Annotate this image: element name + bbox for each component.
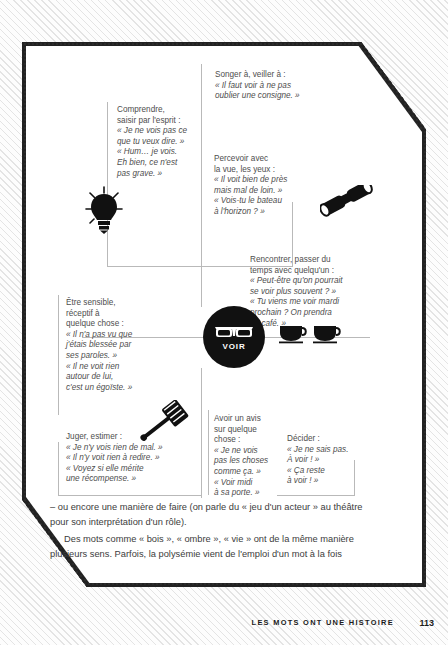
node-rencontrer-head-1: Rencontrer, passer du: [250, 255, 380, 266]
bracket-sensible-vertical: [58, 295, 59, 415]
node-decider-head: Décider :: [287, 434, 357, 445]
connector-vertical-main: [201, 64, 202, 307]
node-comprendre-quote-2: que tu veux dire. »: [117, 137, 227, 148]
bracket-avis-vertical: [208, 410, 209, 495]
bracket-juger-vertical: [58, 442, 59, 495]
node-rencontrer: Rencontrer, passer du temps avec quelqu'…: [250, 255, 380, 329]
node-decider-quote-3: « Ça reste: [287, 466, 357, 477]
node-comprendre-quote-4: Eh bien, ce n'est: [117, 158, 227, 169]
node-comprendre-head-2: saisir par l'esprit :: [117, 116, 227, 127]
gavel-icon: [134, 400, 194, 446]
coffee-cups-icon: [278, 320, 342, 344]
connector-vertical-lower: [201, 368, 202, 498]
node-rencontrer-quote-3: « Tu viens me voir mardi: [250, 297, 380, 308]
node-percevoir-quote-3: « Vois-tu le bateau: [214, 196, 319, 207]
bracket-comprendre-horizontal: [107, 266, 202, 267]
node-decider: Décider : « Je ne sais pas. À voir ! » «…: [287, 434, 357, 487]
node-percevoir-quote-1: « Il voit bien de près: [214, 175, 319, 186]
node-avis-quote-2: pas les choses: [214, 456, 289, 467]
binoculars-icon: [320, 185, 382, 231]
node-decider-quote-2: À voir ! »: [287, 455, 357, 466]
node-sensible-head-1: Être sensible,: [66, 298, 171, 309]
node-avis-head-3: chose :: [214, 435, 289, 446]
node-avis-quote-3: comme ça. »: [214, 467, 289, 478]
node-avis-head-1: Avoir un avis: [214, 414, 289, 425]
node-songer-quote-1: « Il faut voir à ne pas: [215, 81, 335, 92]
node-comprendre-quote-1: « Je ne vois pas ce: [117, 126, 227, 137]
center-node-label: VOIR: [222, 342, 245, 351]
node-juger-quote-2: « Il n'y voit rien à redire. »: [66, 453, 191, 464]
node-percevoir-head-2: la vue, les yeux :: [214, 165, 319, 176]
body-text: – ou encore une manière de faire (on par…: [50, 500, 370, 564]
page-number: 113: [419, 618, 434, 628]
node-sensible-quote-4: « Il ne voit rien: [66, 362, 171, 373]
node-comprendre-head-1: Comprendre,: [117, 105, 227, 116]
body-paragraph-2: Des mots comme « bois », « ombre », « vi…: [50, 532, 370, 561]
footer-chapter-title: LES MOTS ONT UNE HISTOIRE: [252, 618, 394, 627]
node-avis: Avoir un avis sur quelque chose : « Je n…: [214, 414, 289, 499]
node-comprendre-quote-5: pas grave. »: [117, 169, 227, 180]
node-percevoir-quote-2: mais mal de loin. »: [214, 186, 319, 197]
body-paragraph-1: – ou encore une manière de faire (on par…: [50, 500, 370, 529]
center-node-voir: VOIR: [203, 306, 265, 368]
node-avis-quote-5: à sa porte. »: [214, 488, 289, 499]
node-sensible-quote-3: ses paroles. »: [66, 351, 171, 362]
bracket-comprendre-vertical: [107, 102, 108, 266]
node-rencontrer-head-2: temps avec quelqu'un :: [250, 266, 380, 277]
node-avis-quote-1: « Je ne vois: [214, 446, 289, 457]
node-sensible-quote-6: c'est un égoïste. »: [66, 383, 171, 394]
node-rencontrer-quote-2: se voir plus souvent ? »: [250, 287, 380, 298]
node-decider-quote-4: à voir ! »: [287, 476, 357, 487]
node-percevoir: Percevoir avec la vue, les yeux : « Il v…: [214, 154, 319, 218]
lightbulb-icon: [84, 185, 124, 235]
node-sensible-head-2: réceptif à: [66, 309, 171, 320]
node-songer: Songer à, veiller à : « Il faut voir à n…: [215, 70, 335, 102]
node-sensible-quote-2: j'étais blessée par: [66, 340, 171, 351]
node-percevoir-quote-4: à l'horizon ? »: [214, 207, 319, 218]
sunglasses-icon: [214, 324, 254, 339]
node-rencontrer-quote-4: prochain ? On prendra: [250, 308, 380, 319]
node-avis-head-2: sur quelque: [214, 425, 289, 436]
bracket-juger-horizontal: [58, 495, 202, 496]
page-footer: LES MOTS ONT UNE HISTOIRE 113: [0, 611, 448, 627]
node-avis-quote-4: « Voir midi: [214, 478, 289, 489]
node-sensible-head-3: quelque chose :: [66, 319, 171, 330]
node-comprendre-quote-3: « Hum… je vois.: [117, 147, 227, 158]
node-juger-quote-3: « Voyez si elle mérite: [66, 464, 191, 475]
node-sensible-quote-5: autour de lui,: [66, 372, 171, 383]
node-decider-quote-1: « Je ne sais pas.: [287, 445, 357, 456]
node-sensible-quote-1: « Il n'a pas vu que: [66, 330, 171, 341]
node-songer-quote-2: oublier une consigne. »: [215, 91, 335, 102]
node-rencontrer-quote-1: « Peut-être qu'on pourrait: [250, 276, 380, 287]
node-percevoir-head-1: Percevoir avec: [214, 154, 319, 165]
node-etre-sensible: Être sensible, réceptif à quelque chose …: [66, 298, 171, 393]
node-juger-quote-4: une récompense. »: [66, 474, 191, 485]
node-comprendre: Comprendre, saisir par l'esprit : « Je n…: [117, 105, 227, 179]
node-songer-head: Songer à, veiller à :: [215, 70, 335, 81]
